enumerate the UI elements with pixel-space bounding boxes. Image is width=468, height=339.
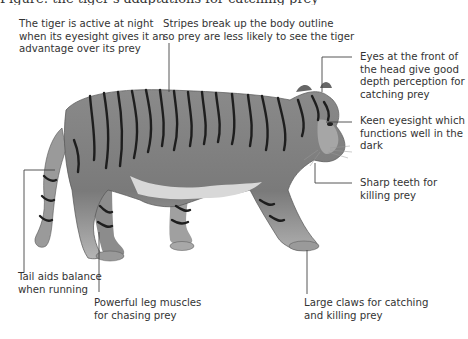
tiger-icon — [35, 82, 352, 261]
annotation-tail: Tail aids balance when running — [18, 271, 102, 296]
annotation-stripes: Stripes break up the body outline so pre… — [163, 18, 354, 43]
annotation-claws: Large claws for catching and killing pre… — [304, 297, 428, 322]
annotation-night-activity: The tiger is active at night when its ey… — [19, 18, 165, 56]
annotation-keen-eyesight: Keen eyesight which functions well in th… — [360, 115, 465, 153]
annotation-leg-muscles: Powerful leg muscles for chasing prey — [94, 297, 201, 322]
annotation-sharp-teeth: Sharp teeth for killing prey — [360, 177, 437, 202]
annotation-eyes-front: Eyes at the front of the head give good … — [360, 51, 465, 101]
